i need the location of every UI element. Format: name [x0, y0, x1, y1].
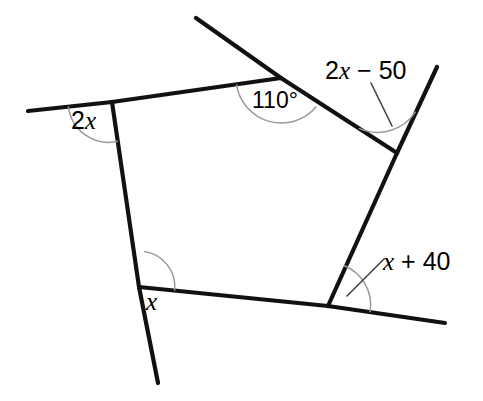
angle-label-110: 110° — [252, 89, 298, 112]
leader-2x-50 — [371, 83, 392, 126]
arc-x-40 — [344, 266, 371, 313]
angle-2x-variable: x — [85, 107, 96, 134]
side-D-E — [139, 287, 328, 306]
angle-label-x-plus-40: x+40 — [383, 249, 451, 274]
angle-110-value: 110° — [252, 87, 298, 113]
angle-x-variable: x — [146, 288, 157, 315]
side-B-C — [281, 78, 397, 153]
side-C-D — [328, 153, 397, 306]
angle-label-x: x — [146, 289, 157, 314]
angle-x-40-operator: + — [401, 247, 416, 275]
ray-from-D-right — [328, 306, 445, 323]
ray-from-B-upleft — [196, 18, 281, 78]
angle-2x-50-constant: 50 — [379, 56, 407, 84]
angle-x-40-constant: 40 — [423, 247, 451, 275]
arc-x — [144, 251, 175, 290]
geometry-diagram: 2x 110° 2x−50 x+40 x — [0, 0, 483, 401]
ray-from-A-left — [28, 102, 112, 111]
angle-2x-50-coefficient: 2 — [325, 56, 339, 84]
angle-label-2x-minus-50: 2x−50 — [325, 58, 406, 83]
geometry-canvas — [0, 0, 483, 401]
angle-2x-50-operator: − — [357, 56, 372, 84]
angle-x-40-variable: x — [383, 248, 394, 275]
leader-x-40 — [347, 259, 384, 296]
angle-label-2x: 2x — [71, 108, 96, 133]
side-E-A — [112, 102, 139, 287]
angle-2x-coefficient: 2 — [71, 106, 85, 134]
angle-2x-50-variable: x — [339, 57, 350, 84]
